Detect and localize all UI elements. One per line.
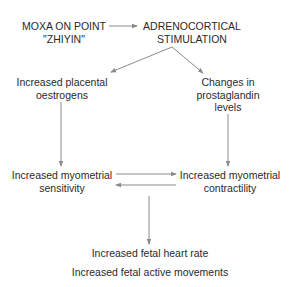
node-movements-line1: Increased fetal active movements bbox=[60, 266, 240, 279]
node-prostaglandin-line3: levels bbox=[188, 101, 268, 114]
node-contractility: Increased myometrial contractility bbox=[178, 169, 282, 194]
node-prostaglandin: Changes in prostaglandin levels bbox=[188, 76, 268, 114]
node-sensitivity-line2: sensitivity bbox=[10, 182, 114, 195]
arrow-adrenocortical-to-prostaglandin bbox=[172, 47, 203, 73]
node-moxa-line1: MOXA ON POINT bbox=[21, 20, 107, 33]
node-adrenocortical-line1: ADRENOCORTICAL bbox=[140, 20, 244, 33]
node-oestrogens-line2: oestrogens bbox=[14, 89, 110, 102]
node-heart-rate-line1: Increased fetal heart rate bbox=[80, 247, 220, 260]
node-sensitivity-line1: Increased myometrial bbox=[10, 169, 114, 182]
node-contractility-line1: Increased myometrial bbox=[178, 169, 282, 182]
node-heart-rate: Increased fetal heart rate bbox=[80, 247, 220, 260]
arrow-adrenocortical-to-oestrogens bbox=[111, 47, 172, 72]
node-contractility-line2: contractility bbox=[178, 182, 282, 195]
node-prostaglandin-line2: prostaglandin bbox=[188, 89, 268, 102]
node-sensitivity: Increased myometrial sensitivity bbox=[10, 169, 114, 194]
node-moxa: MOXA ON POINT "ZHIYIN" bbox=[21, 20, 107, 45]
node-moxa-line2: "ZHIYIN" bbox=[21, 33, 107, 46]
node-prostaglandin-line1: Changes in bbox=[188, 76, 268, 89]
node-movements: Increased fetal active movements bbox=[60, 266, 240, 279]
node-adrenocortical: ADRENOCORTICAL STIMULATION bbox=[140, 20, 244, 45]
node-oestrogens: Increased placental oestrogens bbox=[14, 76, 110, 101]
node-adrenocortical-line2: STIMULATION bbox=[140, 33, 244, 46]
flowchart-canvas: MOXA ON POINT "ZHIYIN" ADRENOCORTICAL ST… bbox=[0, 0, 294, 287]
node-oestrogens-line1: Increased placental bbox=[14, 76, 110, 89]
